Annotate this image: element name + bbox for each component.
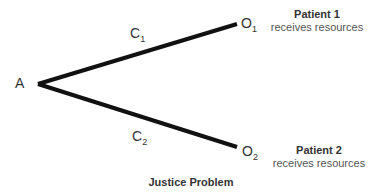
diagram-title: Justice Problem bbox=[0, 176, 382, 188]
patient-name: Patient 2 bbox=[267, 144, 371, 157]
choice-label-1: C1 bbox=[130, 25, 145, 44]
patient-description: receives resources bbox=[267, 157, 371, 170]
outcome-label-2: O2 bbox=[242, 143, 258, 162]
outcome-label-1: O1 bbox=[241, 15, 257, 34]
outcome-subscript: 2 bbox=[253, 152, 258, 162]
start-node-label: A bbox=[15, 75, 24, 91]
outcome-subscript: 1 bbox=[252, 24, 257, 34]
justice-problem-diagram: A C1 C2 O1 O2 Patient 1 receives resourc… bbox=[0, 0, 382, 192]
outcome-letter: O bbox=[242, 143, 253, 159]
patient-description: receives resources bbox=[265, 21, 369, 34]
choice-letter: C bbox=[132, 128, 142, 144]
choice-subscript: 1 bbox=[140, 34, 145, 44]
choice-letter: C bbox=[130, 25, 140, 41]
patient-2-annotation: Patient 2 receives resources bbox=[267, 144, 371, 170]
choice-subscript: 2 bbox=[142, 137, 147, 147]
patient-1-annotation: Patient 1 receives resources bbox=[265, 8, 369, 34]
outcome-letter: O bbox=[241, 15, 252, 31]
patient-name: Patient 1 bbox=[265, 8, 369, 21]
choice-label-2: C2 bbox=[132, 128, 147, 147]
